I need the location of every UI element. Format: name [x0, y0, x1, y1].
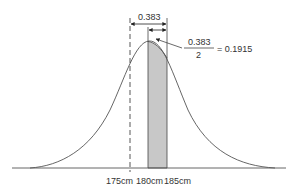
fraction-numerator: 0.383 — [188, 38, 211, 47]
x-tick-175: 175cm — [106, 177, 133, 186]
shaded-area — [148, 42, 167, 169]
span-label: 0.383 — [138, 13, 161, 22]
annotation-leader — [156, 39, 182, 48]
chart-graphics — [0, 0, 297, 192]
x-tick-180: 180cm — [136, 177, 163, 186]
x-tick-185: 185cm — [164, 177, 191, 186]
fraction-result: = 0.1915 — [217, 45, 252, 54]
fraction-denominator: 2 — [196, 51, 201, 60]
normal-distribution-figure: 0.383 0.383 2 = 0.1915 175cm 180cm 185cm — [0, 0, 297, 192]
